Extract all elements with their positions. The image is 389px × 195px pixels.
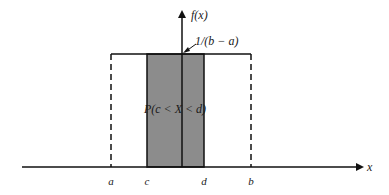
region-label: P(c < X < d) — [143, 102, 206, 116]
tick-label-b: b — [248, 175, 254, 187]
pointer-arrow-icon — [183, 47, 190, 53]
y-axis-label: f(x) — [191, 8, 208, 22]
uniform-pdf-diagram: f(x) x 1/(b − a) P(c < X < d) a c d b — [0, 0, 389, 195]
tick-label-d: d — [201, 175, 207, 187]
tick-label-a: a — [108, 175, 114, 187]
x-axis-label: x — [366, 160, 373, 174]
height-label: 1/(b − a) — [195, 34, 238, 48]
tick-label-c: c — [145, 175, 150, 187]
